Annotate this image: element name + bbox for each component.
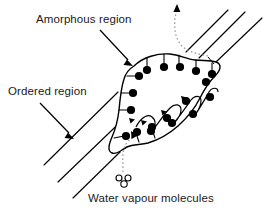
ordered-line-lower-1 [44, 92, 118, 165]
ordered-region-lines-upper [186, 10, 262, 62]
hydrogen-atom-right [125, 175, 131, 181]
water-dot [189, 110, 197, 118]
water-dot [192, 67, 200, 75]
ordered-pointer-head [65, 133, 75, 140]
ordered-line-upper-1 [186, 10, 228, 52]
water-dot [202, 78, 210, 86]
water-dot [208, 70, 216, 78]
vapour-out-arrowhead [173, 4, 180, 12]
label-ordered-region: Ordered region [8, 85, 87, 97]
water-dot [143, 66, 151, 74]
dashed-curved-arrow-out [173, 4, 208, 56]
water-molecule-icon [116, 175, 131, 187]
water-dot [160, 63, 168, 71]
ordered-pointer-shaft [40, 103, 69, 133]
amorphous-pointer-shaft [100, 30, 128, 60]
water-dot [148, 123, 156, 131]
oxygen-atom [121, 181, 127, 187]
vapour-out-path [175, 9, 208, 56]
ordered-line-upper-3 [216, 18, 262, 62]
amorphous-pointer-head [124, 60, 134, 67]
diagram-canvas [0, 0, 270, 218]
water-dot [163, 114, 171, 122]
water-dot [129, 89, 137, 97]
hydrogen-atom-left [116, 175, 122, 181]
water-dot [206, 93, 214, 101]
water-dot [122, 132, 130, 140]
label-water-vapour-molecules: Water vapour molecules [88, 192, 214, 204]
polymer-sorption-diagram: Amorphous region Ordered region Water va… [0, 0, 270, 218]
water-dot [135, 72, 143, 80]
ordered-line-upper-2 [199, 12, 245, 58]
water-dot [176, 63, 184, 71]
water-dot [127, 106, 135, 114]
label-amorphous-region: Amorphous region [36, 13, 132, 25]
